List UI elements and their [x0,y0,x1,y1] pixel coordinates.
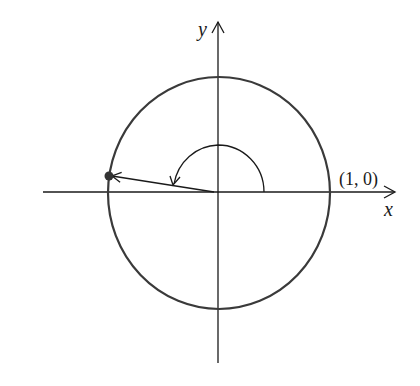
y-axis-label: y [196,18,207,41]
unit-circle [108,77,330,309]
unit-circle-diagram: y x (1, 0) [0,0,420,386]
point-label: (1, 0) [339,169,378,190]
radius-vector [112,176,214,192]
terminal-point [105,172,114,181]
x-axis-label: x [383,198,393,220]
angle-arc [174,145,264,192]
